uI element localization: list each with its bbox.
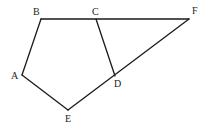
segment-AB [22, 19, 41, 75]
label-F: F [192, 5, 198, 16]
label-B: B [33, 6, 40, 17]
label-A: A [11, 70, 19, 81]
label-C: C [92, 6, 99, 17]
label-D: D [114, 78, 121, 89]
edges [22, 19, 189, 110]
label-E: E [65, 113, 71, 124]
segment-EF [68, 19, 189, 110]
segment-CD [96, 19, 115, 76]
geometry-diagram: A B C D E F [0, 0, 207, 129]
segment-AE [22, 75, 68, 110]
